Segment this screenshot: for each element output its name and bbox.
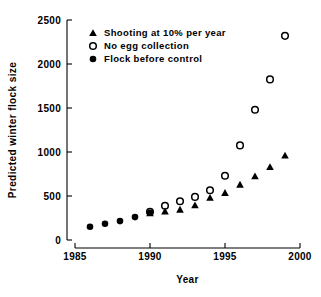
data-point-shooting-at-10-per-year [191,201,199,208]
y-tick-label-3: 1500 [38,103,62,114]
x-tick-label-2: 1995 [213,251,237,262]
y-tick-label-4: 2000 [38,59,62,70]
chart-figure: 050010001500200025001985199019952000Year… [0,0,321,297]
y-tick-label-0: 0 [55,235,61,246]
x-tick-label-1: 1990 [138,251,162,262]
data-point-flock-before-control [147,209,154,216]
data-point-flock-before-control [117,218,124,225]
data-point-shooting-at-10-per-year [176,206,184,213]
data-point-shooting-at-10-per-year [236,181,244,188]
data-point-no-egg-collection [282,33,289,40]
data-point-shooting-at-10-per-year [281,152,289,159]
data-point-shooting-at-10-per-year [206,194,214,201]
legend-marker-2 [90,56,97,63]
x-tick-label-0: 1985 [63,251,87,262]
data-point-no-egg-collection [207,187,214,194]
data-point-no-egg-collection [267,76,274,83]
data-point-no-egg-collection [237,142,244,149]
data-point-no-egg-collection [177,198,184,205]
legend-label-0: Shooting at 10% per year [104,27,226,38]
data-point-no-egg-collection [222,172,229,179]
legend-marker-0 [89,29,97,36]
data-point-shooting-at-10-per-year [251,172,259,179]
data-point-flock-before-control [132,214,139,221]
y-tick-label-5: 2500 [38,15,62,26]
y-tick-label-2: 1000 [38,147,62,158]
legend-label-2: Flock before control [104,53,202,64]
y-axis-title: Predicted winter flock size [7,62,18,198]
legend-label-1: No egg collection [104,40,189,51]
data-point-no-egg-collection [252,106,259,113]
x-axis-title: Year [176,274,199,285]
data-point-no-egg-collection [192,194,199,201]
y-tick-label-1: 500 [43,191,61,202]
data-point-shooting-at-10-per-year [266,163,274,170]
legend-marker-1 [90,43,97,50]
data-point-flock-before-control [87,224,94,231]
data-point-flock-before-control [102,220,109,227]
data-point-shooting-at-10-per-year [221,189,229,196]
scatter-plot: 050010001500200025001985199019952000Year… [0,0,321,297]
x-tick-label-3: 2000 [288,251,312,262]
